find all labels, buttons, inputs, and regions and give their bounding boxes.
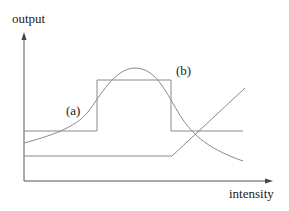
diagram-canvas: output intensity (a) (b) <box>0 0 289 211</box>
ramp-curve <box>24 88 245 156</box>
curve-label-a: (a) <box>66 103 80 118</box>
curve-label-b: (b) <box>176 63 191 78</box>
gaussian-curve <box>24 68 243 161</box>
x-axis-arrow-icon <box>265 179 273 184</box>
rectangular-curve <box>24 80 243 131</box>
y-axis-label: output <box>12 11 46 26</box>
x-axis-label: intensity <box>229 186 274 201</box>
y-axis-arrow-icon <box>22 32 27 40</box>
